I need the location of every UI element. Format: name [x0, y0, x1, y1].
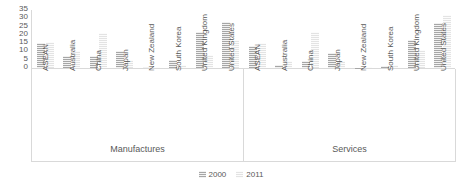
y-axis-tick-label: 35: [19, 5, 28, 13]
bar-group-services: [244, 10, 456, 68]
category-label-group: ASEANAustraliaChinaJapanNew ZealandSouth…: [244, 69, 456, 141]
bar-chart: 05101520253035 ASEANAustraliaChinaJapanN…: [0, 0, 462, 189]
category-label-united-states: United States: [438, 23, 447, 71]
category-label-group: ASEANAustraliaChinaJapanNew ZealandSouth…: [32, 69, 244, 141]
category-label-slot: South Korea: [165, 69, 192, 141]
y-axis-tick-label: 30: [19, 13, 28, 21]
category-label-slot: ASEAN: [244, 69, 271, 141]
y-axis-tick-label: 25: [19, 22, 28, 30]
category-label-slot: United States: [218, 69, 245, 141]
category-label-australia: Australia: [67, 40, 76, 71]
category-label-united-kingdom: United Kingdom: [200, 14, 209, 71]
group-separator-right: [455, 69, 456, 162]
category-label-china: China: [94, 50, 103, 71]
group-title-manufactures: Manufactures: [32, 142, 243, 156]
category-label-japan: Japan: [120, 49, 129, 71]
legend-label: 2000: [209, 170, 227, 179]
category-label-united-states: United States: [226, 23, 235, 71]
group-title-services: Services: [244, 142, 455, 156]
category-label-slot: New Zealand: [138, 69, 165, 141]
bar-group-manufactures: [32, 10, 244, 68]
legend-swatch-icon: [199, 171, 206, 178]
y-axis-tick-label: 20: [19, 30, 28, 38]
category-label-slot: South Korea: [377, 69, 404, 141]
category-label-slot: United Kingdom: [403, 69, 430, 141]
group-axis-baseline: [31, 161, 456, 162]
y-axis: 05101520253035: [0, 8, 30, 68]
chart-legend: 20002011: [0, 170, 462, 179]
category-label-slot: United Kingdom: [191, 69, 218, 141]
legend-label: 2011: [246, 170, 263, 179]
category-label-slot: Australia: [271, 69, 298, 141]
category-label-slot: Japan: [112, 69, 139, 141]
legend-item-2011[interactable]: 2011: [236, 170, 263, 179]
legend-swatch-icon: [236, 171, 243, 178]
category-label-south-korea: South Korea: [385, 27, 394, 71]
y-axis-tick-label: 0: [24, 63, 28, 71]
category-label-slot: ASEAN: [32, 69, 59, 141]
category-label-slot: China: [85, 69, 112, 141]
category-label-china: China: [306, 50, 315, 71]
category-label-slot: New Zealand: [350, 69, 377, 141]
category-label-united-kingdom: United Kingdom: [412, 14, 421, 71]
category-label-slot: China: [297, 69, 324, 141]
category-axis-labels: ASEANAustraliaChinaJapanNew ZealandSouth…: [32, 69, 456, 141]
category-label-japan: Japan: [332, 49, 341, 71]
category-label-new-zealand: New Zealand: [147, 24, 156, 71]
category-label-south-korea: South Korea: [173, 27, 182, 71]
y-axis-tick-label: 10: [19, 46, 28, 54]
category-label-slot: United States: [430, 69, 457, 141]
y-axis-tick-label: 15: [19, 38, 28, 46]
category-label-slot: Japan: [324, 69, 351, 141]
category-label-slot: Australia: [59, 69, 86, 141]
y-axis-tick-label: 5: [24, 55, 28, 63]
legend-item-2000[interactable]: 2000: [199, 170, 227, 179]
category-label-australia: Australia: [279, 40, 288, 71]
category-label-new-zealand: New Zealand: [359, 24, 368, 71]
category-label-asean: ASEAN: [41, 44, 50, 71]
category-label-asean: ASEAN: [253, 44, 262, 71]
